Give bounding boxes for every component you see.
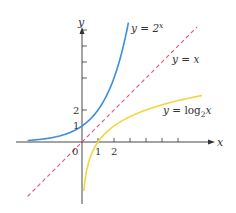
- function-graph: x y 0 1 2 2 1 y = 2x y = x y = log2x: [0, 0, 236, 213]
- x-ticks: [98, 138, 178, 142]
- y-axis-label: y: [77, 16, 85, 29]
- y-tick-label-1: 1: [73, 120, 79, 131]
- label-identity: y = x: [171, 53, 199, 65]
- label-log: y = log2x: [162, 104, 212, 119]
- x-axis-label: x: [217, 136, 224, 149]
- label-exp: y = 2x: [130, 21, 164, 34]
- x-tick-label-2: 2: [111, 146, 117, 157]
- y-tick-label-2: 2: [73, 105, 79, 116]
- y-ticks: [82, 30, 87, 110]
- x-axis-arrow-icon: [208, 140, 215, 145]
- origin-label: 0: [72, 146, 78, 157]
- x-tick-label-1: 1: [95, 146, 101, 157]
